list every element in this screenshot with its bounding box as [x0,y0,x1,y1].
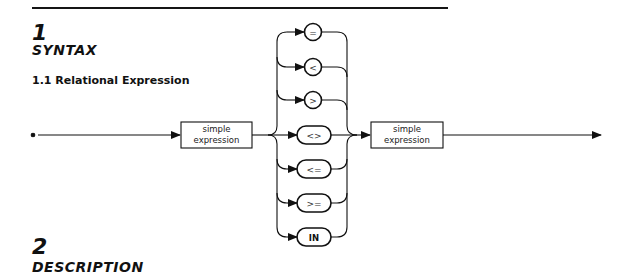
right-operand-line2: expression [384,135,430,145]
left-operand-line2: expression [194,135,240,145]
token-label-not-equal: <> [306,131,321,141]
token-label-less-than: < [309,63,317,73]
syntax-diagram: simple expression simple expression = < … [0,0,618,279]
right-operand-line1: simple [393,124,421,134]
token-label-greater-than: > [309,96,317,106]
token-label-less-equal: <= [306,165,321,175]
start-dot-icon [31,133,35,137]
token-label-in: IN [309,233,319,243]
token-label-equals: = [309,28,317,38]
token-label-greater-equal: >= [306,199,321,209]
left-operand-line1: simple [202,124,230,134]
